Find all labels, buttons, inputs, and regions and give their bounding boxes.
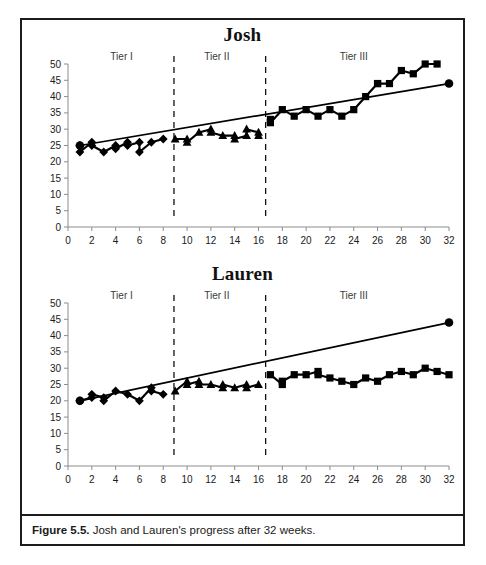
x-tick-label: 28 [396, 474, 408, 485]
chart-lauren-plot: 0510152025303540455002468101214161820222… [22, 285, 463, 500]
x-tick-label: 32 [443, 474, 455, 485]
y-tick-label: 0 [55, 461, 61, 472]
y-tick-label: 0 [55, 222, 61, 233]
y-tick-label: 50 [50, 298, 62, 309]
x-tick-label: 10 [182, 235, 194, 246]
x-tick-label: 24 [348, 235, 360, 246]
x-tick-label: 30 [420, 474, 432, 485]
series-line [80, 323, 449, 401]
data-point-square [433, 368, 440, 375]
tier-annotation-label: Tier II [204, 290, 229, 301]
y-tick-label: 40 [50, 330, 62, 341]
x-tick-label: 6 [137, 474, 143, 485]
data-point-square [374, 80, 381, 87]
data-point-circle [445, 79, 454, 88]
data-point-square [386, 80, 393, 87]
data-point-square [433, 60, 440, 67]
data-point-triangle [254, 380, 263, 388]
data-point-triangle [218, 380, 227, 388]
caption-text-wrap: Figure 5.5. Josh and Lauren's progress a… [22, 524, 315, 536]
x-tick-label: 30 [420, 235, 432, 246]
data-point-square [374, 378, 381, 385]
series-line [80, 84, 449, 146]
data-point-diamond [135, 138, 144, 147]
tier-annotation-label: Tier II [204, 51, 229, 62]
y-tick-label: 25 [50, 140, 62, 151]
x-tick-label: 18 [277, 474, 289, 485]
x-tick-label: 0 [65, 235, 71, 246]
caption-figure-number: Figure 5.5. [32, 524, 90, 536]
x-tick-label: 32 [443, 235, 455, 246]
y-tick-label: 15 [50, 173, 62, 184]
data-point-square [303, 371, 310, 378]
x-tick-label: 0 [65, 474, 71, 485]
figure-caption: Figure 5.5. Josh and Lauren's progress a… [22, 514, 463, 544]
x-tick-label: 8 [160, 235, 166, 246]
x-tick-label: 26 [372, 235, 384, 246]
y-tick-label: 30 [50, 124, 62, 135]
y-tick-label: 35 [50, 346, 62, 357]
data-point-circle [445, 318, 454, 327]
x-tick-label: 8 [160, 474, 166, 485]
y-tick-label: 45 [50, 314, 62, 325]
x-tick-label: 2 [89, 474, 95, 485]
data-point-square [410, 371, 417, 378]
y-tick-label: 30 [50, 363, 62, 374]
data-point-square [398, 67, 405, 74]
series-group [76, 318, 454, 405]
series-group [76, 79, 454, 150]
y-tick-label: 20 [50, 156, 62, 167]
data-point-square [314, 371, 321, 378]
data-point-diamond [159, 135, 168, 144]
tier-annotation-label: Tier I [110, 290, 132, 301]
data-point-square [291, 371, 298, 378]
data-point-square [291, 113, 298, 120]
chart-josh: Josh 05101520253035404550024681012141618… [22, 20, 463, 261]
data-point-circle [76, 141, 85, 150]
data-point-square [362, 374, 369, 381]
tier-annotation-label: Tier III [340, 51, 368, 62]
data-point-square [338, 113, 345, 120]
data-point-square [410, 70, 417, 77]
x-tick-label: 4 [113, 235, 119, 246]
data-point-square [422, 60, 429, 67]
y-tick-label: 35 [50, 107, 62, 118]
x-tick-label: 16 [253, 235, 265, 246]
chart-lauren: Lauren 051015202530354045500246810121416… [22, 261, 463, 500]
data-point-diamond [99, 148, 108, 157]
data-point-square [350, 381, 357, 388]
y-tick-label: 15 [50, 412, 62, 423]
data-point-triangle [242, 125, 251, 133]
x-tick-label: 4 [113, 474, 119, 485]
caption-description: Josh and Lauren's progress after 32 week… [90, 524, 316, 536]
tier-annotation-label: Tier I [110, 51, 132, 62]
chart-josh-plot: 0510152025303540455002468101214161820222… [22, 46, 463, 261]
x-tick-label: 14 [229, 474, 241, 485]
y-tick-label: 40 [50, 91, 62, 102]
y-tick-label: 10 [50, 428, 62, 439]
x-tick-label: 2 [89, 235, 95, 246]
x-tick-label: 6 [137, 235, 143, 246]
y-tick-label: 5 [55, 444, 61, 455]
x-tick-label: 22 [324, 474, 336, 485]
x-tick-label: 10 [182, 474, 194, 485]
series-group [267, 60, 441, 126]
data-point-square [386, 371, 393, 378]
x-tick-label: 12 [205, 474, 217, 485]
series-group [76, 383, 168, 405]
data-point-square [326, 374, 333, 381]
y-tick-label: 5 [55, 205, 61, 216]
y-tick-label: 45 [50, 75, 62, 86]
y-tick-label: 50 [50, 59, 62, 70]
x-tick-label: 22 [324, 235, 336, 246]
data-point-circle [76, 397, 85, 406]
data-point-square [338, 378, 345, 385]
data-point-square [267, 371, 274, 378]
data-point-square [398, 368, 405, 375]
y-tick-label: 10 [50, 189, 62, 200]
figure-frame: Josh 05101520253035404550024681012141618… [20, 18, 465, 546]
x-tick-label: 20 [301, 474, 313, 485]
x-tick-label: 20 [301, 235, 313, 246]
data-point-square [445, 371, 452, 378]
x-tick-label: 14 [229, 235, 241, 246]
